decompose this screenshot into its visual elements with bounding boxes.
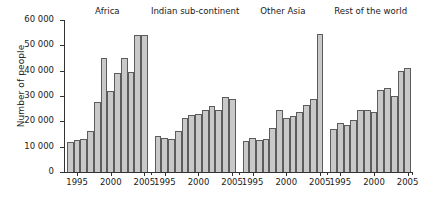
bar[interactable]	[276, 110, 283, 172]
x-axis-tick	[165, 172, 166, 176]
bar[interactable]	[209, 106, 216, 172]
bar-group-bars	[330, 20, 411, 172]
y-axis-tick: 0	[60, 172, 64, 173]
bar[interactable]	[296, 112, 303, 172]
bar[interactable]	[371, 112, 378, 172]
bar[interactable]	[350, 120, 357, 172]
bar[interactable]	[74, 140, 81, 172]
bar[interactable]	[67, 142, 74, 172]
y-axis-tick-label: 30 000	[24, 90, 54, 100]
y-axis-tick: 20 000	[60, 121, 64, 122]
bar-group-title: Indian sub-continent	[151, 6, 240, 16]
x-axis-tick	[111, 172, 112, 176]
bar[interactable]	[404, 68, 411, 172]
x-axis-tick-label: 2005	[397, 177, 419, 187]
bar[interactable]	[128, 72, 135, 172]
x-axis-tick-label: 2000	[275, 177, 297, 187]
bar[interactable]	[357, 110, 364, 172]
x-axis-tick	[144, 172, 145, 176]
bar-group: Rest of the world	[330, 20, 411, 172]
bar[interactable]	[229, 99, 236, 172]
y-axis-tick-label: 0	[49, 166, 54, 176]
bar[interactable]	[155, 136, 162, 172]
bar-group-title: Rest of the world	[334, 6, 407, 16]
plot-area: 010 00020 00030 00040 00050 00060 000 Af…	[64, 20, 412, 172]
bar-group-title: Africa	[95, 6, 120, 16]
bar-group-bars	[243, 20, 324, 172]
bar-group-bars	[67, 20, 148, 172]
x-axis-group-separator	[412, 172, 413, 175]
x-axis-group-separator	[327, 172, 328, 175]
bar[interactable]	[202, 110, 209, 172]
bar-group: Indian sub-continent	[155, 20, 236, 172]
bar[interactable]	[391, 96, 398, 172]
bar-group-title: Other Asia	[260, 6, 305, 16]
bar[interactable]	[398, 71, 405, 172]
x-axis-tick-label: 2005	[309, 177, 331, 187]
x-axis-tick-label: 2000	[363, 177, 385, 187]
chart-figure: Number of people 010 00020 00030 00040 0…	[0, 0, 424, 208]
bar[interactable]	[182, 118, 189, 172]
x-axis-tick-label: 1995	[330, 177, 352, 187]
x-axis-tick	[374, 172, 375, 176]
bar[interactable]	[263, 139, 270, 172]
bar[interactable]	[330, 129, 337, 172]
bar[interactable]	[290, 116, 297, 172]
bar-group-bars	[155, 20, 236, 172]
bar[interactable]	[94, 102, 101, 172]
bar[interactable]	[175, 131, 182, 172]
y-axis-tick: 30 000	[60, 96, 64, 97]
bar[interactable]	[303, 105, 310, 172]
bar[interactable]	[269, 128, 276, 172]
bar[interactable]	[283, 118, 290, 172]
bar[interactable]	[364, 110, 371, 172]
bar[interactable]	[243, 141, 250, 172]
bar-group: Africa	[67, 20, 148, 172]
bar[interactable]	[384, 88, 391, 172]
x-axis-tick-label: 2005	[134, 177, 156, 187]
bar[interactable]	[215, 110, 222, 172]
bar[interactable]	[249, 138, 256, 172]
y-axis-tick: 50 000	[60, 45, 64, 46]
x-axis-tick	[340, 172, 341, 176]
bar[interactable]	[377, 90, 384, 172]
x-axis-group-separator	[239, 172, 240, 175]
x-axis-tick-label: 2000	[100, 177, 122, 187]
x-axis-tick-label: 1995	[154, 177, 176, 187]
bar[interactable]	[195, 114, 202, 172]
bar[interactable]	[168, 139, 175, 172]
y-axis-tick-label: 10 000	[24, 141, 54, 151]
bar[interactable]	[337, 123, 344, 172]
bar[interactable]	[161, 138, 168, 172]
x-axis-line	[64, 172, 412, 173]
x-axis-tick-label: 2000	[188, 177, 210, 187]
bar[interactable]	[80, 139, 87, 172]
x-axis-tick	[77, 172, 78, 176]
y-axis-line	[64, 20, 65, 172]
bar[interactable]	[134, 35, 141, 172]
bar[interactable]	[121, 58, 128, 172]
x-axis-tick	[198, 172, 199, 176]
x-axis-group-separator	[151, 172, 152, 175]
x-axis-tick	[320, 172, 321, 176]
bar[interactable]	[256, 140, 263, 172]
y-axis-tick: 60 000	[60, 20, 64, 21]
y-axis-tick: 40 000	[60, 71, 64, 72]
x-axis-tick	[232, 172, 233, 176]
bar[interactable]	[107, 91, 114, 172]
bar[interactable]	[114, 73, 121, 172]
x-axis-tick-label: 2005	[221, 177, 243, 187]
bar[interactable]	[87, 131, 94, 172]
bar[interactable]	[101, 58, 108, 172]
bar-group: Other Asia	[243, 20, 324, 172]
x-axis-tick	[286, 172, 287, 176]
y-axis-tick-label: 50 000	[24, 39, 54, 49]
bar[interactable]	[310, 99, 317, 172]
bar[interactable]	[344, 125, 351, 172]
y-axis-tick-label: 60 000	[24, 14, 54, 24]
bar[interactable]	[317, 34, 324, 172]
bar[interactable]	[188, 115, 195, 172]
bar[interactable]	[141, 35, 148, 172]
y-axis-tick: 10 000	[60, 147, 64, 148]
bar[interactable]	[222, 97, 229, 172]
